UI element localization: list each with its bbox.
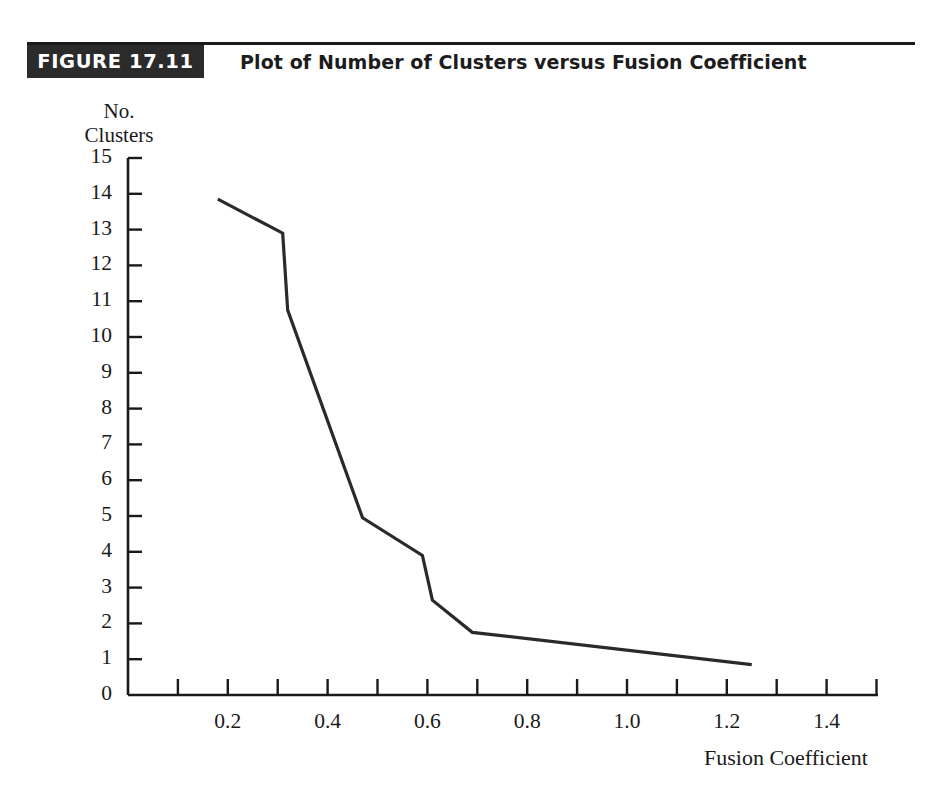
y-tick-label: 2 — [72, 609, 112, 634]
y-tick-label: 6 — [72, 466, 112, 491]
y-tick-label: 9 — [72, 359, 112, 384]
x-tick-label: 0.2 — [198, 709, 258, 734]
y-tick-label: 11 — [72, 287, 112, 312]
y-tick-label: 7 — [72, 430, 112, 455]
x-tick-label: 0.4 — [298, 709, 358, 734]
y-tick-label: 3 — [72, 574, 112, 599]
y-tick-label: 5 — [72, 502, 112, 527]
y-tick-label: 0 — [72, 681, 112, 706]
y-tick-label: 14 — [72, 180, 112, 205]
y-tick-label: 10 — [72, 323, 112, 348]
y-tick-label: 4 — [72, 538, 112, 563]
y-tick-label: 13 — [72, 216, 112, 241]
y-tick-label: 15 — [72, 144, 112, 169]
x-tick-label: 1.0 — [597, 709, 657, 734]
x-tick-label: 1.4 — [797, 709, 857, 734]
x-tick-label: 1.2 — [697, 709, 757, 734]
y-tick-label: 1 — [72, 645, 112, 670]
figure-page: FIGURE 17.11 Plot of Number of Clusters … — [0, 0, 942, 801]
x-axis-title: Fusion Coefficient — [704, 745, 868, 771]
x-tick-label: 0.8 — [497, 709, 557, 734]
chart-axes — [128, 158, 878, 695]
y-tick-label: 12 — [72, 251, 112, 276]
y-tick-label: 8 — [72, 395, 112, 420]
data-line — [218, 199, 752, 664]
y-axis-title: No. Clusters — [64, 100, 174, 147]
x-tick-label: 0.6 — [397, 709, 457, 734]
chart-line-series — [218, 199, 752, 664]
chart-plot-area: No. Clusters 0123456789101112131415 0.20… — [0, 0, 942, 801]
